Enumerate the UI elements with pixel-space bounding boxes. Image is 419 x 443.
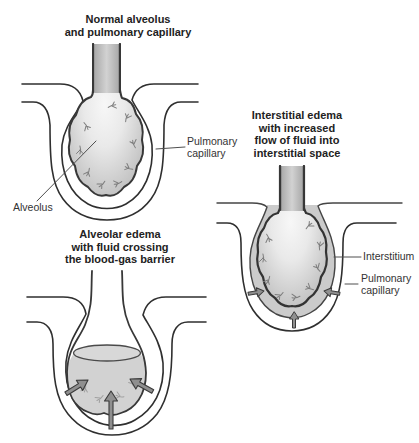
interstitium-label: Interstitium xyxy=(363,250,414,262)
pulmonary-capillary-label: Pulmonary capillary xyxy=(187,135,237,159)
interstitial-panel-title: Interstitial edema with increased flow o… xyxy=(217,109,377,159)
diagram-canvas xyxy=(0,0,419,443)
normal-alveolus-drawing xyxy=(22,44,198,220)
pulmonary-capillary-label-2: Pulmonary capillary xyxy=(361,272,411,296)
pulmonary-edema-figure: Normal alveolus and pulmonary capillary … xyxy=(0,0,419,443)
normal-panel-title: Normal alveolus and pulmonary capillary xyxy=(28,13,228,38)
alveolar-duct xyxy=(281,166,303,211)
leader-line-pulmonary-capillary xyxy=(156,147,185,149)
alveolar-duct xyxy=(94,44,119,93)
alveolus-label: Alveolus xyxy=(13,201,53,213)
interstitial-edema-drawing xyxy=(217,166,402,331)
alveolar-edema-drawing xyxy=(27,271,206,435)
alveolar-panel-title: Alveolar edema with fluid crossing the b… xyxy=(25,228,215,266)
fluid-meniscus xyxy=(74,345,141,361)
